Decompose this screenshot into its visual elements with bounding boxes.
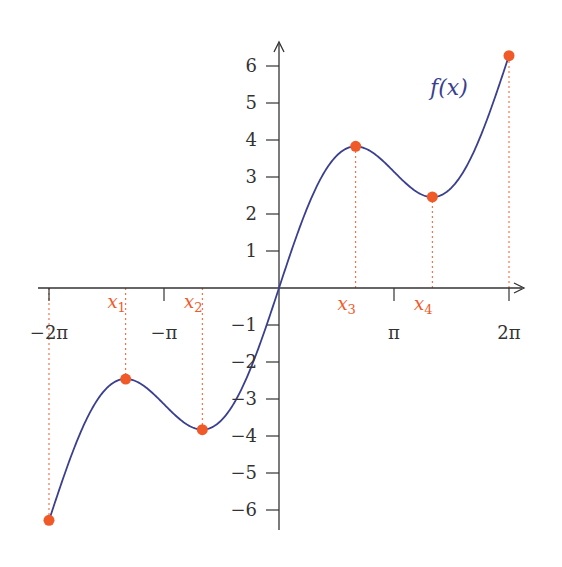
- point-x4: [427, 191, 438, 202]
- y-tick-label: −3: [230, 388, 257, 409]
- point-endpoint-right: [504, 50, 515, 61]
- point-label-x3: x3: [337, 293, 355, 317]
- y-tick-label: −2: [230, 351, 257, 372]
- x-tick-label: −π: [151, 322, 178, 343]
- point-label-x4: x4: [414, 293, 432, 317]
- point-x2: [197, 424, 208, 435]
- y-tick-label: 5: [246, 92, 257, 113]
- function-plot: 654321−1−2−3−4−5−6−2π−ππ2πx1x2x3x4 f(x): [0, 0, 562, 567]
- axes: [38, 42, 524, 530]
- y-tick-label: 6: [246, 55, 257, 76]
- point-x3: [350, 141, 361, 152]
- y-tick-label: 3: [246, 166, 257, 187]
- point-label-x1: x1: [107, 291, 125, 315]
- point-endpoint-left: [43, 515, 54, 526]
- y-tick-label: 1: [246, 240, 257, 261]
- point-x1: [120, 374, 131, 385]
- point-label-x2: x2: [184, 291, 202, 315]
- y-tick-label: 4: [246, 129, 257, 150]
- y-tick-label: −1: [230, 314, 257, 335]
- x-tick-label: 2π: [497, 322, 520, 343]
- y-tick-label: 2: [246, 203, 257, 224]
- function-label: f(x): [428, 75, 468, 100]
- y-tick-label: −4: [230, 425, 257, 446]
- y-tick-label: −6: [230, 499, 257, 520]
- y-tick-label: −5: [230, 462, 257, 483]
- x-tick-label: −2π: [30, 322, 69, 343]
- x-tick-label: π: [388, 322, 400, 343]
